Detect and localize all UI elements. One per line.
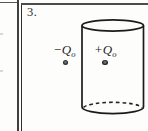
cylinder-top-ellipse [82, 20, 144, 31]
cylinder-figure [0, 0, 148, 131]
scan-artifact [0, 33, 3, 35]
positive-charge-label: +Qo [94, 43, 116, 61]
rule-line-top-left-segment [0, 2, 17, 4]
rule-line-vertical-inner [21, 3, 23, 131]
negative-charge-subscript: o [71, 48, 75, 58]
rule-line-top [21, 3, 148, 5]
scan-artifact [0, 70, 3, 72]
positive-charge-symbol: +Q [94, 42, 112, 57]
negative-charge-dot [63, 60, 69, 66]
worksheet-cell: 3. −Qo +Qo [0, 0, 148, 131]
positive-charge-subscript: o [112, 48, 116, 58]
cylinder-bottom-hidden-arc [84, 102, 143, 107]
positive-charge-dot [102, 60, 108, 66]
negative-charge-symbol: −Q [53, 42, 71, 57]
negative-charge-label: −Qo [53, 43, 75, 61]
cylinder-bottom-front-arc [82, 107, 144, 114]
rule-line-vertical-outer [17, 0, 19, 131]
problem-number: 3. [27, 6, 37, 19]
